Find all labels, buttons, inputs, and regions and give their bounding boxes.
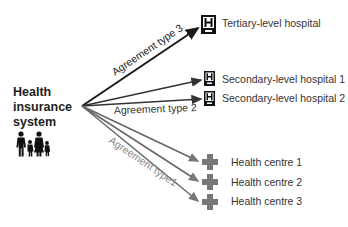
target-label-centre-3: Health centre 3 xyxy=(231,195,302,207)
agreement-type-2-label: Agreement type 2 xyxy=(114,101,197,116)
family-icon xyxy=(16,131,50,156)
health-cross-icon xyxy=(202,174,218,190)
edge-centre-2 xyxy=(82,106,198,181)
target-label-centre-1: Health centre 1 xyxy=(231,156,302,168)
agreement-type-1-label: Agreement type1 xyxy=(107,134,180,189)
health-cross-icon xyxy=(202,154,218,170)
hospital-icon xyxy=(204,91,215,106)
edge-tertiary xyxy=(82,28,198,106)
target-label-centre-2: Health centre 2 xyxy=(231,176,302,188)
source-title-line: insurance xyxy=(13,100,72,115)
agreement-type-3-label: Agreement type 3 xyxy=(109,21,185,77)
target-label-secondary-2: Secondary-level hospital 2 xyxy=(222,92,345,104)
source-title-line: Health xyxy=(13,85,72,100)
source-title-line: system xyxy=(13,115,72,130)
health-cross-icon xyxy=(202,194,218,210)
target-label-tertiary: Tertiary-level hospital xyxy=(222,17,321,29)
hospital-icon xyxy=(201,15,216,34)
source-title: Health insurance system xyxy=(13,85,72,130)
hospital-icon xyxy=(204,71,215,86)
target-label-secondary-1: Secondary-level hospital 1 xyxy=(222,73,345,85)
